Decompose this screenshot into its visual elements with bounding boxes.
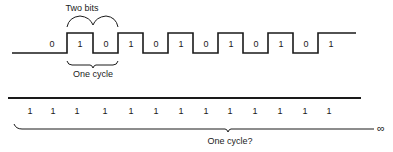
bit-label: 0 [303,39,308,49]
bit-label: 1 [277,106,282,116]
bit-label: 1 [50,106,55,116]
bit-label: 1 [77,39,82,49]
bit-label: 1 [228,39,233,49]
one-cycle-question-label: One cycle? [207,136,252,146]
bit-label: 0 [153,39,158,49]
bit-label: 0 [203,39,208,49]
bit-label: 1 [27,106,32,116]
bit-label: 1 [178,39,183,49]
one-cycle-brace [67,61,118,68]
bit-label: 0 [253,39,258,49]
bit-label: 1 [178,106,183,116]
bit-label: 0 [103,39,108,49]
bit-label: 1 [128,106,133,116]
bit-label: 1 [328,39,333,49]
bit-label: 1 [153,106,158,116]
two-bits-label: Two bits [65,3,98,13]
bit-label: 1 [102,106,107,116]
bit-label: 0 [49,39,54,49]
diagram-canvas [0,0,393,152]
one-cycle-question-brace [14,124,374,132]
bit-label: 1 [326,106,331,116]
infinity-symbol: ∞ [377,123,385,133]
bit-label: 1 [278,39,283,49]
bit-label: 1 [302,106,307,116]
bit-label: 1 [203,106,208,116]
bit-label: 1 [252,106,257,116]
two-bits-brace [67,16,118,27]
bit-label: 1 [128,39,133,49]
bit-label: 1 [227,106,232,116]
bit-label: 1 [74,106,79,116]
one-cycle-label: One cycle [73,69,113,79]
